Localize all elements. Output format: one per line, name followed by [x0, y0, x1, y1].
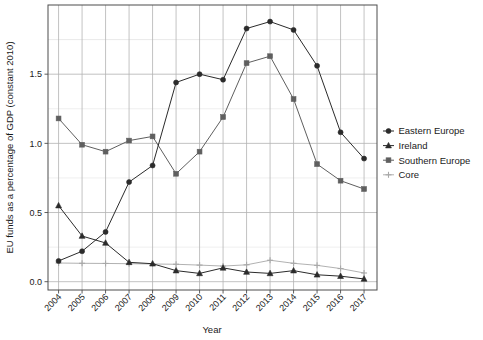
data-point [103, 229, 108, 234]
legend-label: Core [399, 169, 420, 180]
legend-label: Southern Europe [399, 155, 471, 166]
data-point [127, 138, 132, 143]
data-point [268, 19, 273, 24]
data-point [174, 80, 179, 85]
y-tick-label: 0.0 [29, 277, 42, 287]
data-point [362, 156, 367, 161]
data-point [150, 163, 155, 168]
data-point [244, 26, 249, 31]
data-point [174, 171, 179, 176]
data-point [197, 72, 202, 77]
data-point [56, 116, 61, 121]
data-point [80, 142, 85, 147]
y-tick-label: 1.5 [29, 69, 42, 79]
data-point [56, 258, 61, 263]
y-axis-title: EU funds as a percentage of GDP (constan… [4, 41, 15, 253]
legend-label: Ireland [399, 140, 428, 151]
y-tick-label: 0.5 [29, 208, 42, 218]
y-tick-label: 1.0 [29, 139, 42, 149]
data-point [315, 63, 320, 68]
data-point [150, 134, 155, 139]
data-point [127, 180, 132, 185]
legend-label: Eastern Europe [399, 125, 465, 136]
data-point [244, 61, 249, 66]
data-point [338, 130, 343, 135]
data-point [338, 178, 343, 183]
data-point [221, 77, 226, 82]
legend-marker [386, 129, 391, 134]
data-point [291, 97, 296, 102]
data-point [80, 249, 85, 254]
data-point [362, 187, 367, 192]
data-point [268, 54, 273, 59]
data-point [197, 149, 202, 154]
data-point [315, 162, 320, 167]
chart-figure: 0.00.51.01.5 200420052006200720082009201… [0, 0, 483, 340]
legend-marker [386, 158, 391, 163]
data-point [103, 149, 108, 154]
data-point [291, 27, 296, 32]
data-point [221, 115, 226, 120]
line-chart: 0.00.51.01.5 200420052006200720082009201… [0, 0, 483, 340]
x-axis-title: Year [202, 324, 221, 335]
